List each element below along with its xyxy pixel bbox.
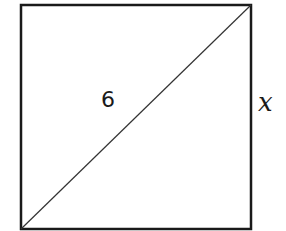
side-length-label: x: [258, 87, 273, 117]
diagonal-length-label: 6: [101, 87, 115, 112]
diagonal-line: [21, 5, 251, 229]
square-diagram: 6 x: [0, 0, 286, 231]
